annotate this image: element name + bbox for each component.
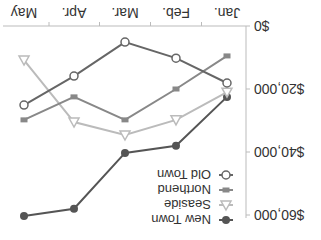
x-tick-label: May — [11, 5, 37, 21]
legend-label: Northend — [158, 182, 211, 197]
chart-container: $0$20,000$40,000$60,000Jan.Feb.Mar.Apr.M… — [0, 0, 321, 240]
legend-label: New Town — [151, 212, 211, 227]
legend-label: Old Town — [157, 167, 211, 182]
x-tick-label: Jan. — [214, 5, 240, 21]
y-tick-label: $60,000 — [254, 207, 305, 223]
data-point — [122, 117, 129, 122]
data-point — [121, 38, 129, 46]
data-point — [20, 212, 28, 220]
data-point — [173, 87, 180, 92]
series-line-seaside — [24, 60, 227, 135]
y-tick-label: $40,000 — [254, 144, 305, 160]
data-point — [172, 142, 180, 150]
x-tick-label: Feb. — [162, 5, 190, 21]
legend-label: Seaside — [164, 197, 211, 212]
line-chart: $0$20,000$40,000$60,000Jan.Feb.Mar.Apr.M… — [0, 0, 321, 240]
x-tick-label: Apr. — [62, 5, 87, 21]
data-point — [223, 79, 231, 87]
data-point — [70, 72, 78, 80]
data-point — [70, 205, 78, 213]
y-tick-label: $20,000 — [254, 81, 305, 97]
x-tick-label: Mar. — [111, 5, 138, 21]
data-point — [121, 149, 129, 157]
data-point — [20, 101, 28, 109]
y-tick-label: $0 — [254, 18, 270, 34]
legend-marker — [222, 171, 230, 179]
data-point — [172, 54, 180, 62]
data-point — [71, 94, 78, 99]
data-point — [120, 131, 130, 140]
legend-marker — [222, 216, 230, 224]
data-point — [224, 53, 231, 58]
data-point — [21, 117, 28, 122]
series-line-old-town — [24, 42, 227, 105]
legend-marker — [223, 188, 230, 193]
